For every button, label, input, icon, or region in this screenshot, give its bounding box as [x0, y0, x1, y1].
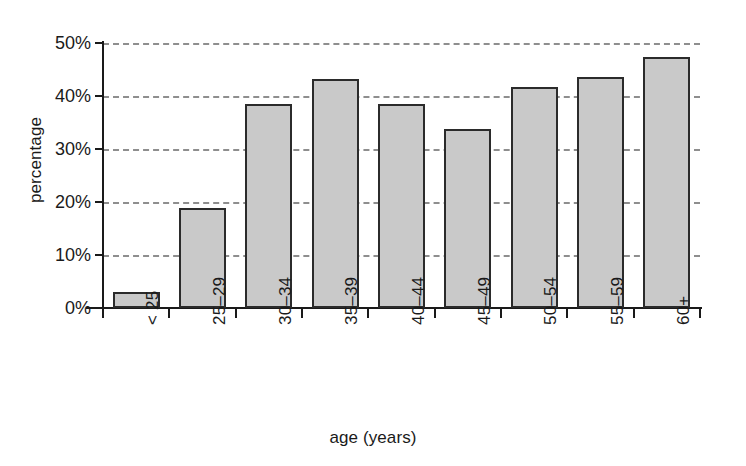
x-axis-tick-label: 50–54 — [542, 277, 559, 325]
x-axis-tick-label: 30–34 — [277, 277, 294, 325]
x-axis-tick-label: 25–29 — [211, 277, 228, 325]
y-axis-tick — [95, 95, 104, 97]
x-axis-labels: < 2525–2930–3435–3940–4445–4950–5455–596… — [0, 0, 746, 466]
x-axis-tick-label: 55–59 — [609, 277, 626, 325]
x-axis-tick-label: 35–39 — [343, 277, 360, 325]
y-axis-tick — [95, 254, 104, 256]
bar-chart: percentage 0%10%20%30%40%50% < 2525–2930… — [0, 0, 746, 466]
x-axis-tick-label: 60+ — [675, 296, 692, 325]
y-axis-tick — [95, 148, 104, 150]
y-axis-tick — [95, 201, 104, 203]
x-axis-tick-label: 40–44 — [410, 277, 427, 325]
x-axis-tick-label: 45–49 — [476, 277, 493, 325]
y-axis-tick — [95, 42, 104, 44]
x-axis-tick-label: < 25 — [144, 291, 161, 325]
y-axis-tick — [95, 307, 104, 309]
x-axis-title: age (years) — [0, 428, 746, 448]
